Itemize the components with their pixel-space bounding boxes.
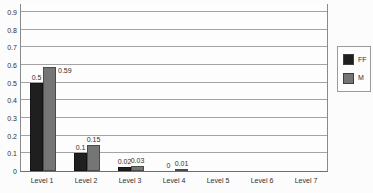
gridline bbox=[21, 152, 327, 153]
bar-m-level-2 bbox=[87, 145, 100, 171]
y-tick-label: 0.3 bbox=[0, 115, 17, 123]
gridline bbox=[21, 29, 327, 30]
legend-label-ff: FF bbox=[358, 56, 367, 64]
gridline bbox=[21, 135, 327, 136]
m-series-swatch bbox=[343, 73, 354, 84]
y-tick-label: 0.7 bbox=[0, 44, 17, 52]
x-category-label: Level 1 bbox=[20, 176, 64, 185]
gridline bbox=[21, 46, 327, 47]
legend: FF M bbox=[337, 46, 371, 92]
y-tick-label: 0 bbox=[0, 168, 17, 176]
x-category-label: Level 7 bbox=[284, 176, 328, 185]
bar-ff-level-1 bbox=[30, 83, 43, 171]
legend-label-m: M bbox=[358, 74, 364, 82]
x-category-label: Level 5 bbox=[196, 176, 240, 185]
bar-chart: 0.50.590.10.150.020.0300.01 00.10.20.30.… bbox=[0, 0, 373, 193]
bar-ff-level-3 bbox=[118, 167, 131, 171]
gridline bbox=[21, 99, 327, 100]
bar-m-level-3 bbox=[131, 166, 144, 171]
bar-value-label: 0.02 bbox=[118, 158, 132, 166]
bar-value-label: 0.15 bbox=[87, 136, 101, 144]
y-tick-label: 0.6 bbox=[0, 62, 17, 70]
bar-value-label: 0.1 bbox=[76, 144, 86, 152]
bar-m-level-4 bbox=[175, 169, 188, 171]
x-category-label: Level 4 bbox=[152, 176, 196, 185]
bar-value-label: 0.03 bbox=[131, 157, 145, 165]
y-tick-label: 0.4 bbox=[0, 97, 17, 105]
y-tick-label: 0.8 bbox=[0, 27, 17, 35]
legend-item-ff: FF bbox=[343, 54, 370, 65]
bar-m-level-1 bbox=[43, 67, 56, 171]
x-category-label: Level 3 bbox=[108, 176, 152, 185]
bar-value-label: 0.59 bbox=[58, 67, 72, 75]
bar-ff-level-2 bbox=[74, 153, 87, 171]
y-tick-label: 0.9 bbox=[0, 9, 17, 17]
gridline bbox=[21, 11, 327, 12]
y-tick-label: 0.5 bbox=[0, 80, 17, 88]
ff-series-swatch bbox=[343, 54, 354, 65]
x-category-label: Level 6 bbox=[240, 176, 284, 185]
y-tick-label: 0.1 bbox=[0, 150, 17, 158]
gridline bbox=[21, 117, 327, 118]
y-tick-label: 0.2 bbox=[0, 133, 17, 141]
bar-value-label: 0.01 bbox=[175, 160, 189, 168]
gridline bbox=[21, 64, 327, 65]
bar-value-label: 0 bbox=[167, 162, 171, 170]
plot-area: 0.50.590.10.150.020.0300.01 bbox=[20, 4, 328, 172]
gridline bbox=[21, 82, 327, 83]
x-category-label: Level 2 bbox=[64, 176, 108, 185]
bar-value-label: 0.5 bbox=[32, 74, 42, 82]
legend-item-m: M bbox=[343, 73, 370, 84]
